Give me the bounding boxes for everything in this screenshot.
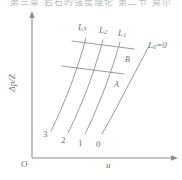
x-axis-arrowhead [171, 155, 178, 160]
curve-top-label-L2: L2 [99, 26, 107, 36]
y-axis-label: Δp/Z [7, 63, 17, 103]
curve-bottom-label-2: 2 [61, 136, 66, 145]
curve-top-label-L3-sub: 3 [83, 25, 86, 32]
curve-top-label-L0-suffix: =0 [156, 40, 167, 50]
figure-screenshot: 第三章 岩石的强度理论 第二节 莫尔 L3 L2 L1 L0=0 B A 3 2… [0, 0, 182, 180]
curve-bottom-label-0: 0 [96, 140, 101, 149]
y-axis-arrowhead [29, 11, 34, 18]
curve-top-label-L1: L1 [118, 29, 126, 39]
upper-tie-line [72, 41, 134, 49]
origin-label: O [21, 160, 28, 169]
curve-top-label-L1-sub: 1 [123, 31, 126, 38]
curve-2 [68, 40, 103, 133]
curve-bottom-label-1: 1 [78, 139, 83, 148]
diagram-canvas [0, 0, 182, 180]
curve-top-label-L0: L0=0 [148, 41, 167, 51]
curve-bottom-label-3: 3 [43, 130, 48, 139]
curve-3 [51, 38, 86, 131]
x-axis-label: u [106, 161, 111, 170]
point-label-B: B [125, 56, 130, 64]
curve-top-label-L3: L3 [78, 23, 86, 33]
point-label-A: A [114, 81, 119, 89]
curve-top-label-L2-sub: 2 [104, 28, 107, 35]
